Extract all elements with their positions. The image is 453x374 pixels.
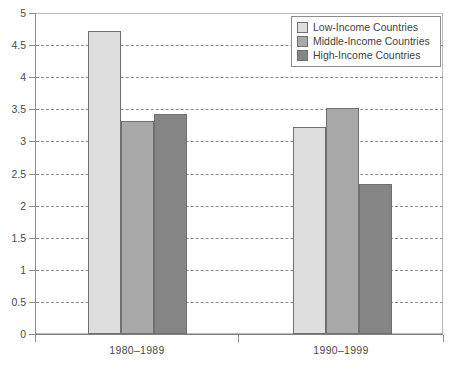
y-axis-tick-label: 4: [0, 72, 26, 83]
y-axis-tick-label: 1: [0, 265, 26, 276]
bar: [326, 108, 359, 334]
bar: [121, 121, 154, 334]
y-axis-tick-label: 4.5: [0, 40, 26, 51]
bar: [359, 184, 392, 334]
y-axis-tick: [29, 77, 35, 78]
bar-chart-figure: 00.511.522.533.544.55 1980–19891990–1999…: [0, 0, 453, 374]
y-axis-tick-label: 5: [0, 8, 26, 19]
y-axis-tick-label: 2: [0, 201, 26, 212]
legend-item-label: Middle-Income Countries: [313, 36, 430, 47]
y-axis-tick-label: 3.5: [0, 104, 26, 115]
y-axis-tick-label: 2.5: [0, 169, 26, 180]
legend-item: High-Income Countries: [297, 49, 435, 62]
x-axis-tick: [238, 335, 239, 342]
y-axis-tick: [29, 302, 35, 303]
x-axis-line: [35, 334, 443, 335]
x-axis-tick: [443, 335, 444, 342]
y-axis-tick-label: 3: [0, 136, 26, 147]
y-axis-tick-label: 0: [0, 329, 26, 340]
y-axis-tick: [29, 238, 35, 239]
y-axis-tick: [29, 270, 35, 271]
legend-item: Middle-Income Countries: [297, 35, 435, 48]
chart-legend: Low-Income CountriesMiddle-Income Countr…: [291, 16, 441, 67]
page-bottom-margin: [0, 362, 453, 374]
legend-swatch-icon: [297, 22, 308, 33]
legend-item-label: Low-Income Countries: [313, 22, 418, 33]
legend-swatch-icon: [297, 36, 308, 47]
y-axis-tick: [29, 141, 35, 142]
bar: [88, 31, 121, 334]
x-axis-tick-label: 1990–1999: [271, 344, 411, 356]
x-axis-tick: [35, 335, 36, 342]
y-axis-tick: [29, 109, 35, 110]
y-axis-tick: [29, 13, 35, 14]
bar: [293, 127, 326, 334]
y-axis-tick: [29, 206, 35, 207]
bar: [154, 114, 187, 334]
x-axis-tick-label: 1980–1989: [67, 344, 207, 356]
y-axis-tick-label: 1.5: [0, 233, 26, 244]
y-axis-tick-label: 0.5: [0, 297, 26, 308]
legend-item-label: High-Income Countries: [313, 50, 420, 61]
y-axis-tick: [29, 174, 35, 175]
y-axis-tick: [29, 45, 35, 46]
legend-swatch-icon: [297, 50, 308, 61]
legend-item: Low-Income Countries: [297, 21, 435, 34]
